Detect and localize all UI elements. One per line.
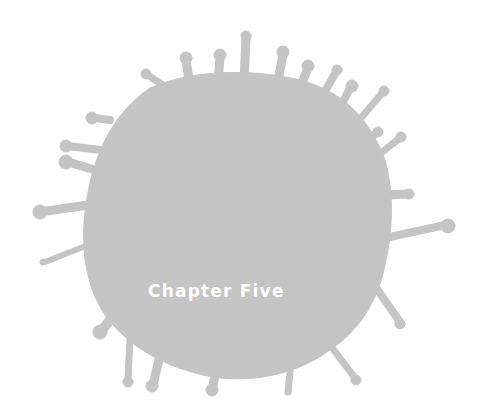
chapter-title: Chapter Five <box>148 281 285 301</box>
chapter-opener-page: Chapter Five <box>0 0 486 418</box>
ink-splat-icon <box>0 0 486 418</box>
